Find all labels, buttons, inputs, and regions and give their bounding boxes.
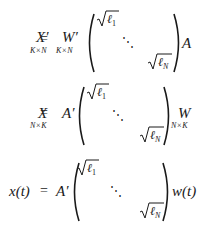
diagonal-dots: ⋱ xyxy=(112,109,126,121)
equals-sign: = xyxy=(40,106,48,120)
diagonal-dots: ⋱ xyxy=(122,36,136,48)
ell-n: ℓN xyxy=(158,56,168,71)
ell-1: ℓ1 xyxy=(87,162,96,177)
diagonal-dots: ⋱ xyxy=(110,185,124,197)
lhs-subscript: K×N xyxy=(30,47,47,55)
right-factor-symbol: A xyxy=(182,36,191,51)
left-factor-symbol: W′ xyxy=(62,30,78,45)
left-parenthesis xyxy=(84,13,96,73)
ell-n: ℓN xyxy=(150,205,160,220)
right-factor-symbol: W xyxy=(178,106,191,121)
right-factor-subscript: N×K xyxy=(171,122,188,130)
ell-n: ℓN xyxy=(150,129,160,144)
lhs-subscript: N×K xyxy=(30,122,47,130)
right-factor-symbol: w(t) xyxy=(172,184,196,199)
equals-sign: = xyxy=(40,32,48,46)
left-parenthesis xyxy=(74,86,86,146)
ell-1: ℓ1 xyxy=(107,13,116,28)
left-factor-subscript: K×N xyxy=(56,47,73,55)
ell-1: ℓ1 xyxy=(97,86,106,101)
lhs-symbol: x(t) xyxy=(9,184,30,199)
right-parenthesis xyxy=(162,86,174,146)
left-factor-symbol: A′ xyxy=(62,106,74,121)
equals-sign: = xyxy=(40,184,48,198)
left-factor-symbol: A′ xyxy=(56,184,68,199)
